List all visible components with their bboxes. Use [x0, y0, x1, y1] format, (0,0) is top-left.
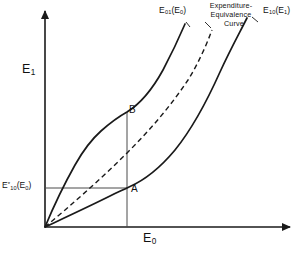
x-axis-title: E0	[143, 232, 157, 247]
y-axis-title-main: E	[22, 62, 31, 76]
curve-label-e10-arg-close: )	[287, 5, 290, 15]
x-axis-title-main: E	[143, 231, 152, 245]
point-label-a: A	[131, 184, 138, 195]
curve-label-e01-arg-close: )	[183, 5, 186, 15]
y-axis-tick-label: E*10(E0)	[2, 181, 31, 191]
annotation-line-3: Curve	[209, 20, 259, 29]
y-axis-title: E1	[22, 63, 36, 78]
y-axis-title-sub: 1	[31, 68, 36, 77]
curve-label-e10-arg: (E	[276, 5, 285, 15]
leader-line-e01	[186, 22, 190, 27]
annotation-expenditure-equivalence-curve: Expenditure- Equivalence Curve	[203, 2, 259, 28]
curve-label-e10-sub: 10	[269, 9, 276, 15]
point-label-b: B	[129, 105, 136, 116]
curve-label-e01-sub: 01	[165, 9, 172, 15]
curve-label-e01-arg: (E	[172, 5, 181, 15]
tick-label-arg: (E	[17, 180, 26, 190]
tick-label-arg-close: )	[28, 180, 31, 190]
curve-expenditure-equivalence	[45, 30, 212, 227]
plot-svg	[0, 0, 304, 254]
curve-e10	[45, 18, 247, 227]
figure-container: E1 E0 E*10(E0) E01(E0) E10(E1) Expenditu…	[0, 0, 304, 254]
curve-label-e10: E10(E1)	[263, 6, 290, 15]
x-axis-title-sub: 0	[152, 237, 157, 246]
curve-label-e01: E01(E0)	[159, 6, 186, 15]
curve-e01	[45, 24, 185, 227]
